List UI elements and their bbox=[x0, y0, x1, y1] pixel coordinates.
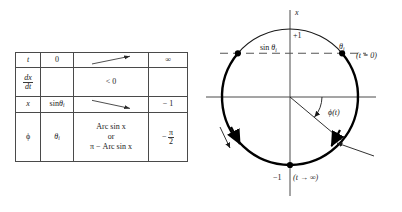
annotation-t-to-infinity: (t → ∞) bbox=[293, 173, 319, 182]
cell-text: x bbox=[26, 99, 30, 108]
cell-text: < 0 bbox=[106, 77, 117, 86]
unit-circle-diagram: x +1 sinθi θi (t = 0) ϕ(t) −1 (t → ∞) bbox=[198, 0, 402, 212]
sin-theta-i: sinθi bbox=[50, 99, 65, 108]
cell-text: i bbox=[58, 135, 60, 141]
cell-text: t bbox=[27, 55, 29, 64]
arrow-down-right-icon bbox=[74, 97, 148, 112]
row-trend-x bbox=[74, 97, 149, 113]
row-label-dxdt: dx dt bbox=[16, 68, 41, 97]
fraction-numerator: dx bbox=[23, 74, 33, 82]
cell-text: − 1 bbox=[163, 99, 174, 108]
cell-text: π − Arc sin x bbox=[74, 142, 148, 152]
row-label-x: x bbox=[16, 97, 41, 113]
row-trend-phi: Arc sin x or π − Arc sin x bbox=[74, 113, 149, 162]
row-final-phi: −π2 bbox=[149, 113, 188, 162]
point-mirror bbox=[235, 50, 241, 56]
arcsin-expression: Arc sin x or π − Arc sin x bbox=[74, 122, 148, 151]
phi-angle-arc bbox=[315, 97, 323, 117]
radius-line bbox=[290, 97, 342, 141]
table-row: t 0 bbox=[16, 53, 188, 68]
pointer-arrow-left bbox=[220, 127, 230, 148]
row-initial-x: sinθi bbox=[41, 97, 74, 113]
limit-table: t 0 bbox=[15, 52, 188, 162]
table-row: dx dt < 0 bbox=[16, 68, 188, 97]
row-trend-t bbox=[74, 53, 149, 68]
label-text: i bbox=[343, 46, 345, 52]
unit-circle-diagram-panel: x +1 sinθi θi (t = 0) ϕ(t) −1 (t → ∞) bbox=[198, 0, 402, 212]
fraction-denominator: 2 bbox=[168, 137, 174, 146]
row-final-dxdt bbox=[149, 68, 188, 97]
row-label-t: t bbox=[16, 53, 41, 68]
tick-label-plus-one: +1 bbox=[293, 31, 302, 40]
pointer-arrow-right bbox=[337, 143, 374, 156]
figure-root: t 0 bbox=[0, 0, 402, 212]
label-text: sin bbox=[260, 43, 269, 52]
fraction-denominator: dt bbox=[23, 82, 33, 91]
tick-label-minus-one: −1 bbox=[273, 173, 282, 182]
negative-pi-over-two: −π2 bbox=[162, 129, 174, 146]
fraction-pi-2: π2 bbox=[168, 129, 174, 146]
table-row: x sinθi bbox=[16, 97, 188, 113]
cell-text: 0 bbox=[55, 55, 59, 64]
cell-text: Arc sin x bbox=[74, 122, 148, 132]
annotation-t-equals-zero: (t = 0) bbox=[356, 51, 377, 60]
row-final-x: − 1 bbox=[149, 97, 188, 113]
label-sin-theta-i: sinθi bbox=[260, 43, 277, 53]
cell-text: ϕ bbox=[26, 132, 30, 141]
fraction-dx-dt: dx dt bbox=[23, 74, 33, 91]
fraction-numerator: π bbox=[168, 129, 174, 137]
point-limit-bottom bbox=[287, 162, 293, 168]
row-label-phi: ϕ bbox=[16, 113, 41, 162]
row-initial-phi: θi bbox=[41, 113, 74, 162]
row-final-t: ∞ bbox=[149, 53, 188, 68]
row-initial-dxdt bbox=[41, 68, 74, 97]
axis-label-x: x bbox=[294, 8, 299, 17]
label-text: i bbox=[275, 47, 277, 53]
table-row: ϕ θi Arc sin x or π − Arc sin x bbox=[16, 113, 188, 162]
row-trend-dxdt: < 0 bbox=[74, 68, 149, 97]
limit-table-panel: t 0 bbox=[15, 52, 185, 162]
cell-text: ∞ bbox=[165, 55, 171, 64]
label-phi-of-t: ϕ(t) bbox=[328, 108, 340, 117]
theta-i: θi bbox=[54, 132, 59, 141]
cell-text: sin bbox=[50, 99, 59, 108]
cell-text: i bbox=[63, 102, 65, 108]
cell-text: − bbox=[162, 133, 167, 141]
label-theta-i: θi bbox=[339, 42, 345, 52]
row-initial-t: 0 bbox=[41, 53, 74, 68]
cell-text: or bbox=[74, 132, 148, 142]
arrow-up-right-icon bbox=[74, 53, 148, 67]
